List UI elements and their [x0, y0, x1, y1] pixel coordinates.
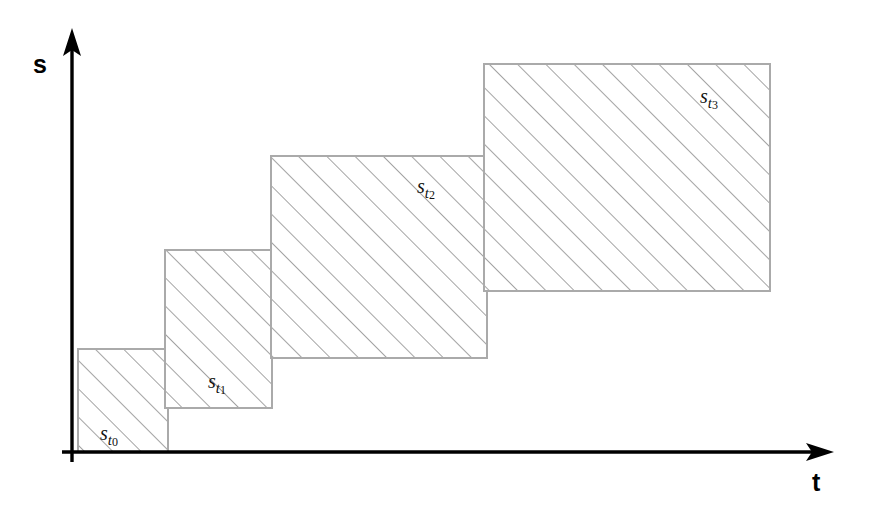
bar-label-subscript: t3	[708, 95, 718, 111]
bar-label-st0: st0	[100, 423, 118, 448]
bar-label-subscript: t2	[425, 185, 435, 201]
bar-label-subscript: t0	[108, 432, 118, 448]
bar-label-subscript-index: 2	[429, 188, 435, 202]
bar-st3	[484, 64, 770, 291]
bar-label-base: s	[208, 370, 216, 392]
t-axis-label: t	[812, 470, 820, 495]
bar-label-base: s	[100, 422, 108, 444]
bar-label-base: s	[417, 175, 425, 197]
bar-hatch-fill	[484, 64, 770, 291]
s-axis-label: s	[33, 52, 47, 77]
bar-label-subscript-index: 1	[220, 383, 226, 397]
bar-st0	[78, 349, 168, 452]
bar-label-subscript-index: 3	[712, 98, 718, 112]
bar-label-st3: st3	[700, 86, 718, 111]
bar-hatch-fill	[271, 156, 487, 358]
bar-st2	[271, 156, 487, 358]
bar-label-subscript-index: 0	[112, 435, 118, 449]
bar-label-subscript: t1	[216, 380, 226, 396]
blocks-group	[78, 64, 770, 452]
bar-label-base: s	[700, 85, 708, 107]
bar-label-st1: st1	[208, 371, 226, 396]
step-function-diagram: s t st0st1st2st3	[0, 0, 876, 522]
diagram-canvas	[0, 0, 876, 522]
bar-label-st2: st2	[417, 176, 435, 201]
bar-hatch-fill	[78, 349, 168, 452]
